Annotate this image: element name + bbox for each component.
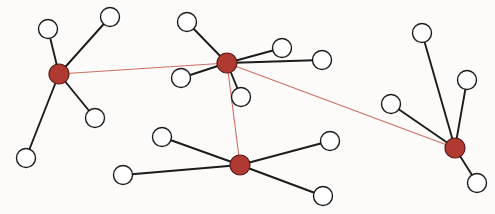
leaf-edge bbox=[162, 137, 240, 165]
leaf-node[interactable] bbox=[413, 24, 432, 43]
leaf-edge bbox=[123, 165, 240, 175]
leaf-node[interactable] bbox=[86, 109, 105, 128]
leaf-node[interactable] bbox=[232, 88, 251, 107]
leaf-edge bbox=[227, 60, 322, 63]
leaf-edge bbox=[240, 141, 330, 165]
leaf-node[interactable] bbox=[153, 128, 172, 147]
hub-edge-layer bbox=[59, 63, 455, 165]
leaf-node[interactable] bbox=[313, 51, 332, 70]
leaf-edge bbox=[391, 104, 455, 148]
leaf-edge-layer bbox=[26, 17, 477, 196]
leaf-node[interactable] bbox=[39, 20, 58, 39]
hub-node[interactable] bbox=[230, 155, 250, 175]
hub-node[interactable] bbox=[217, 53, 237, 73]
graph-svg-surface bbox=[0, 0, 495, 214]
hub-node[interactable] bbox=[445, 138, 465, 158]
leaf-node[interactable] bbox=[17, 149, 36, 168]
leaf-node[interactable] bbox=[114, 166, 133, 185]
leaf-node[interactable] bbox=[321, 132, 340, 151]
network-graph-diagram bbox=[0, 0, 495, 214]
leaf-node[interactable] bbox=[314, 187, 333, 206]
leaf-node[interactable] bbox=[458, 71, 477, 90]
node-layer bbox=[17, 8, 487, 206]
hub-edge bbox=[59, 63, 227, 74]
hub-edge bbox=[227, 63, 455, 148]
leaf-edge bbox=[26, 74, 59, 158]
leaf-node[interactable] bbox=[382, 95, 401, 114]
leaf-node[interactable] bbox=[178, 13, 197, 32]
leaf-edge bbox=[59, 17, 110, 74]
hub-node[interactable] bbox=[49, 64, 69, 84]
leaf-node[interactable] bbox=[172, 69, 191, 88]
leaf-node[interactable] bbox=[273, 39, 292, 58]
leaf-edge bbox=[240, 165, 323, 196]
leaf-node[interactable] bbox=[101, 8, 120, 27]
leaf-edge bbox=[422, 33, 455, 148]
leaf-node[interactable] bbox=[468, 174, 487, 193]
